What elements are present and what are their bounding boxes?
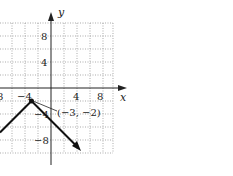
y-axis-arrow-icon [48,12,54,21]
y-tick-label: 8 [41,31,47,42]
x-tick-label: 8 [97,91,103,102]
x-tick-label: 8 [0,91,3,102]
coordinate-plane: x y 8 −4 4 8 8 4 −4 −8 (−3, −2) [0,0,233,176]
x-tick-label: 4 [73,91,79,102]
y-tick-label: 4 [41,57,47,68]
y-axis-label: y [57,6,65,19]
x-axis-label: x [120,91,127,104]
y-tick-label: −8 [34,135,49,146]
vertex-label: (−3, −2) [57,107,101,118]
